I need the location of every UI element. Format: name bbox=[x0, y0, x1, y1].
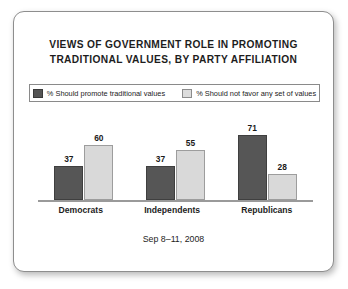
bar-groups: 37 60 37 55 bbox=[38, 115, 313, 200]
bar-democrats-not-favor: 60 bbox=[84, 115, 113, 200]
bar-republicans-not-favor: 28 bbox=[268, 115, 297, 200]
bar-value-label: 28 bbox=[277, 162, 286, 173]
legend-item-not-favor: % Should not favor any set of values bbox=[182, 89, 316, 98]
bar-republicans-promote: 71 bbox=[238, 115, 267, 200]
chart-title: VIEWS OF GOVERNMENT ROLE IN PROMOTING TR… bbox=[14, 37, 333, 67]
bar-value-label: 71 bbox=[247, 123, 256, 134]
bar-independents-promote: 37 bbox=[146, 115, 175, 200]
category-labels: Democrats Independents Republicans bbox=[38, 205, 313, 215]
chart-legend: % Should promote traditional values % Sh… bbox=[29, 84, 320, 102]
chart-title-line-2: TRADITIONAL VALUES, BY PARTY AFFILIATION bbox=[14, 52, 333, 67]
bar-group-democrats: 37 60 bbox=[54, 115, 113, 200]
bar-independents-not-favor: 55 bbox=[176, 115, 205, 200]
legend-label-promote: % Should promote traditional values bbox=[47, 89, 165, 98]
bar-rect bbox=[54, 166, 83, 200]
bar-rect bbox=[146, 166, 175, 200]
bar-rect bbox=[238, 135, 267, 200]
bar-value-label: 60 bbox=[94, 133, 103, 144]
legend-item-promote: % Should promote traditional values bbox=[33, 89, 165, 98]
chart-subtitle: Sep 8–11, 2008 bbox=[14, 234, 333, 244]
bar-value-label: 37 bbox=[64, 154, 73, 165]
bar-rect bbox=[268, 174, 297, 200]
legend-label-not-favor: % Should not favor any set of values bbox=[196, 89, 316, 98]
category-label-democrats: Democrats bbox=[59, 205, 103, 215]
x-axis-line bbox=[38, 200, 313, 202]
chart-card: VIEWS OF GOVERNMENT ROLE IN PROMOTING TR… bbox=[13, 11, 334, 272]
bar-group-republicans: 71 28 bbox=[238, 115, 297, 200]
bar-rect bbox=[176, 150, 205, 200]
legend-swatch-dark-icon bbox=[33, 89, 43, 98]
category-label-independents: Independents bbox=[144, 205, 200, 215]
bar-value-label: 55 bbox=[186, 138, 195, 149]
category-label-republicans: Republicans bbox=[241, 205, 292, 215]
bar-rect bbox=[84, 145, 113, 200]
bar-democrats-promote: 37 bbox=[54, 115, 83, 200]
legend-swatch-light-icon bbox=[182, 89, 192, 98]
chart-title-line-1: VIEWS OF GOVERNMENT ROLE IN PROMOTING bbox=[14, 37, 333, 52]
plot-area: 37 60 37 55 bbox=[38, 115, 313, 200]
bar-group-independents: 37 55 bbox=[146, 115, 205, 200]
bar-value-label: 37 bbox=[156, 154, 165, 165]
screenshot-stage: VIEWS OF GOVERNMENT ROLE IN PROMOTING TR… bbox=[0, 0, 348, 289]
